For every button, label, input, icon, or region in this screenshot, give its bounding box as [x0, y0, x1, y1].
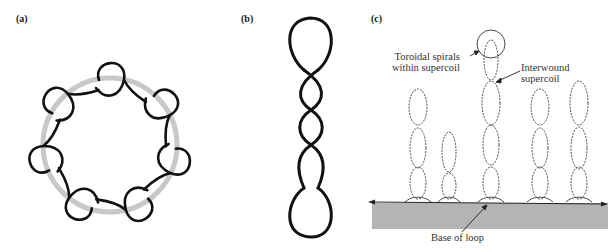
panel-a-toroid	[22, 63, 196, 234]
base-of-loop-label: Base of loop	[431, 232, 484, 243]
scaffold-base	[372, 203, 608, 229]
figure-canvas	[0, 0, 616, 252]
toroidal-highlight-circle	[477, 30, 505, 58]
toroidal-line-1: Toroidal spirals	[392, 51, 460, 62]
toroid-strand	[22, 63, 196, 234]
arrow-left-icon	[368, 200, 375, 205]
toroid-core-ring	[43, 78, 177, 212]
interwound-line-1: Interwound	[521, 62, 569, 73]
interwound-line-2: supercoil	[521, 73, 569, 84]
toroidal-line-2: within supercoil	[392, 62, 460, 73]
panel-b-plectoneme	[290, 18, 332, 237]
interwound-supercoil-label: Interwound supercoil	[521, 62, 569, 84]
toroidal-spirals-label: Toroidal spirals within supercoil	[392, 51, 460, 73]
